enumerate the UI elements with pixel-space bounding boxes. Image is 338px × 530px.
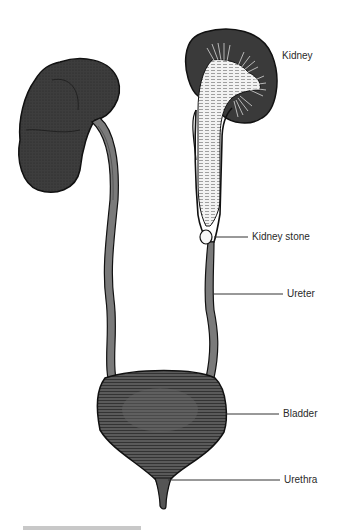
right-kidney	[186, 29, 277, 226]
left-ureter	[92, 118, 118, 378]
caption-bar	[23, 526, 141, 530]
label-urethra: Urethra	[284, 474, 317, 486]
diagram-illustration	[0, 0, 338, 530]
kidney-stone	[200, 230, 212, 244]
label-ureter: Ureter	[287, 288, 315, 300]
urethra	[155, 478, 171, 509]
urinary-system-diagram: Kidney Kidney stone Ureter Bladder Ureth…	[0, 0, 338, 530]
label-bladder: Bladder	[283, 408, 317, 420]
label-kidney-stone: Kidney stone	[252, 231, 310, 243]
label-kidney: Kidney	[282, 50, 313, 62]
